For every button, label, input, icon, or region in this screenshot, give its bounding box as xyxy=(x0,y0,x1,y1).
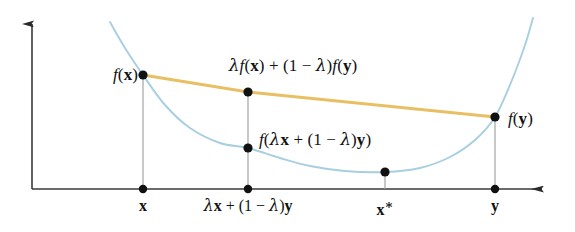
label-curve-midpoint: f(λx + (1 − λ)y) xyxy=(259,131,371,148)
label-chord-midpoint: λf(x) + (1 − λ)f(y) xyxy=(229,57,358,74)
data-point-fx xyxy=(138,70,147,79)
data-point-curve-midpoint xyxy=(243,143,252,152)
chord-line xyxy=(143,75,495,117)
tick-label-combo: λx + (1 − λ)y xyxy=(204,198,293,214)
convex-curve xyxy=(110,18,533,172)
data-point-tick-y xyxy=(491,185,499,193)
data-point-chord-midpoint xyxy=(243,87,252,96)
tick-label-x-star: x∗ xyxy=(377,198,394,218)
tick-label-y: y xyxy=(491,198,499,214)
data-point-fy xyxy=(490,112,499,121)
tick-label-x: x xyxy=(139,198,147,214)
data-point-tick-combo xyxy=(244,185,252,193)
data-point-minimum xyxy=(380,167,389,176)
data-point-tick-x xyxy=(139,185,147,193)
label-f-x: f(x) xyxy=(112,66,139,83)
axes-group xyxy=(32,24,542,189)
label-f-y: f(y) xyxy=(508,110,533,127)
convex-function-figure: f(x) λf(x) + (1 − λ)f(y) f(λx + (1 − λ)y… xyxy=(0,0,575,232)
